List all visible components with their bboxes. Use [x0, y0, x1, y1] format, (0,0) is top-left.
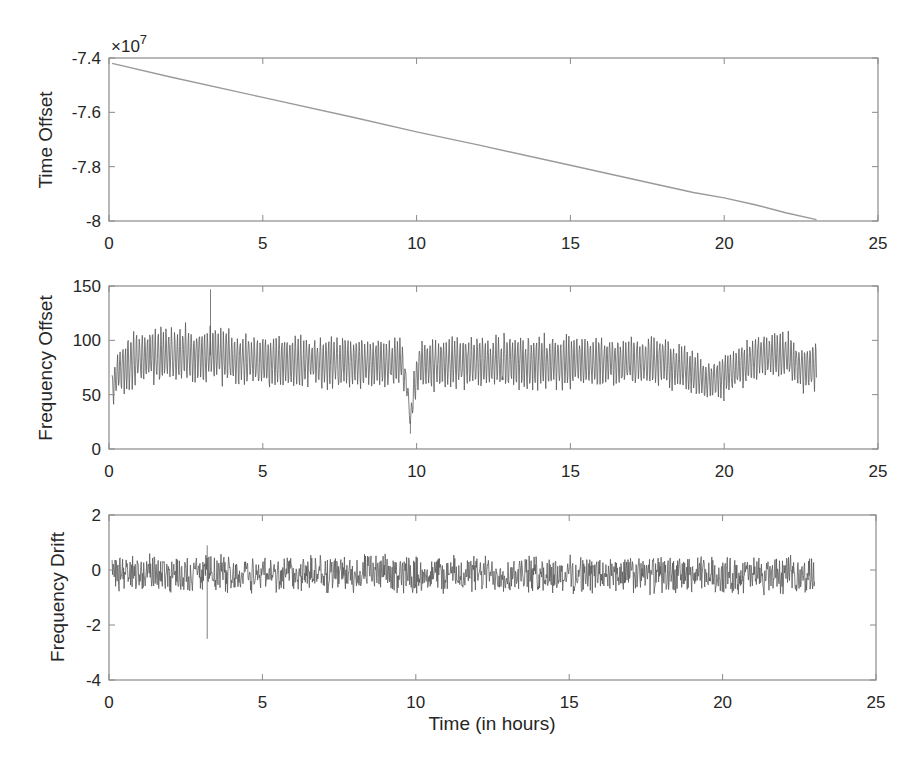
- ticks-time-offset: 0510152025-8-7.8-7.6-7.4: [72, 49, 888, 253]
- subplot-frequency-drift: 0510152025-4-202 Frequency Drift Time (i…: [47, 506, 885, 734]
- subplot-time-offset: 0510152025-8-7.8-7.6-7.4 ×107 Time Offse…: [35, 32, 887, 253]
- series-line: [112, 63, 816, 219]
- ytick-label: -2: [86, 616, 101, 635]
- plot-area-time-offset: [112, 63, 816, 219]
- ytick-label: -4: [86, 671, 101, 690]
- xtick-label: 20: [715, 234, 734, 253]
- axes-frame-frequency-drift: [109, 515, 876, 680]
- figure: 0510152025-8-7.8-7.6-7.4 ×107 Time Offse…: [0, 0, 916, 772]
- subplot-frequency-offset: 0510152025050100150 Frequency Offset: [35, 277, 887, 481]
- ylabel-time-offset: Time Offset: [35, 91, 56, 189]
- xtick-label: 0: [104, 234, 113, 253]
- series-line: [112, 289, 816, 434]
- xtick-label: 15: [561, 234, 580, 253]
- ytick-label: -7.4: [72, 49, 101, 68]
- xtick-label: 20: [713, 693, 732, 712]
- xtick-label: 25: [867, 693, 886, 712]
- ytick-label: -7.6: [72, 103, 101, 122]
- ticks-frequency-drift: 0510152025-4-202: [86, 506, 886, 712]
- xtick-label: 10: [406, 693, 425, 712]
- exponent-label: ×107: [111, 32, 147, 56]
- ytick-label: 50: [82, 386, 101, 405]
- xtick-label: 0: [104, 462, 113, 481]
- xlabel-time: Time (in hours): [428, 713, 555, 734]
- xtick-label: 25: [869, 234, 888, 253]
- xtick-label: 15: [561, 462, 580, 481]
- xtick-label: 5: [258, 693, 267, 712]
- ytick-label: 150: [73, 277, 101, 296]
- xtick-label: 0: [104, 693, 113, 712]
- ytick-label: 2: [92, 506, 101, 525]
- ylabel-frequency-drift: Frequency Drift: [47, 531, 68, 662]
- xtick-label: 5: [258, 234, 267, 253]
- xtick-label: 5: [258, 462, 267, 481]
- axes-frame-time-offset: [109, 58, 878, 221]
- xtick-label: 15: [560, 693, 579, 712]
- ytick-label: 0: [92, 440, 101, 459]
- xtick-label: 20: [715, 462, 734, 481]
- ytick-label: 0: [92, 561, 101, 580]
- plot-area-frequency-drift: [112, 545, 815, 639]
- xtick-label: 10: [407, 234, 426, 253]
- ylabel-frequency-offset: Frequency Offset: [35, 295, 56, 441]
- xtick-label: 10: [407, 462, 426, 481]
- plot-area-frequency-offset: [112, 289, 816, 434]
- xtick-label: 25: [869, 462, 888, 481]
- ytick-label: -7.8: [72, 158, 101, 177]
- ytick-label: 100: [73, 331, 101, 350]
- series-line: [112, 545, 815, 639]
- ytick-label: -8: [86, 212, 101, 231]
